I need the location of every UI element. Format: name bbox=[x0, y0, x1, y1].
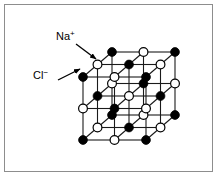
label-cl-minus: Cl− bbox=[33, 68, 48, 81]
na-label-text: Na bbox=[56, 30, 71, 42]
ion-chloride bbox=[108, 48, 117, 57]
ion-sodium bbox=[110, 73, 119, 82]
ion-sodium bbox=[171, 79, 180, 88]
svg-text:Na+: Na+ bbox=[56, 29, 75, 42]
lattice-ion-nodes bbox=[79, 48, 180, 145]
ion-sodium bbox=[125, 92, 134, 101]
ion-chloride bbox=[79, 136, 88, 145]
figure-root: Na+ Cl− bbox=[0, 0, 218, 177]
ion-sodium bbox=[93, 60, 102, 69]
ion-chloride bbox=[142, 73, 151, 82]
ion-sodium bbox=[139, 48, 148, 57]
na-label-charge: + bbox=[70, 29, 75, 38]
ion-chloride bbox=[93, 92, 102, 101]
ion-sodium bbox=[110, 136, 119, 145]
na-arrow bbox=[76, 44, 96, 59]
svg-text:Cl−: Cl− bbox=[33, 68, 48, 81]
ion-chloride bbox=[171, 111, 180, 120]
cl-arrow bbox=[58, 69, 80, 80]
ion-chloride bbox=[142, 136, 151, 145]
ion-sodium bbox=[156, 123, 165, 132]
ion-chloride bbox=[156, 92, 165, 101]
ion-chloride bbox=[79, 73, 88, 82]
leader-arrows bbox=[58, 44, 96, 80]
ion-chloride bbox=[125, 60, 134, 69]
cl-label-charge: − bbox=[43, 68, 48, 77]
ion-sodium bbox=[156, 60, 165, 69]
ion-sodium bbox=[79, 104, 88, 113]
ion-sodium bbox=[93, 123, 102, 132]
label-na-plus: Na+ bbox=[56, 29, 75, 42]
ion-chloride bbox=[171, 48, 180, 57]
nacl-lattice-diagram: Na+ Cl− bbox=[0, 0, 218, 177]
cl-label-text: Cl bbox=[33, 69, 43, 81]
ion-chloride bbox=[110, 104, 119, 113]
ion-sodium bbox=[142, 104, 151, 113]
ion-chloride bbox=[125, 123, 134, 132]
